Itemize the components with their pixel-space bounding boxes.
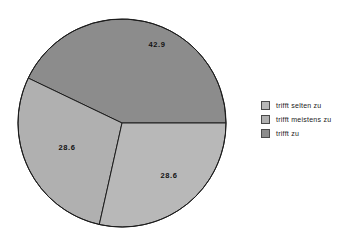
legend-item-trifft-selten-zu[interactable]: trifft selten zu: [261, 98, 357, 112]
pie-svg: 42.9 28.6 28.6: [17, 18, 227, 228]
legend-swatch-icon: [261, 115, 270, 124]
legend-item-label: trifft zu: [276, 129, 299, 138]
legend-item-label: trifft meistens zu: [276, 115, 331, 124]
pie-chart-figure: 42.9 28.6 28.6 trifft selten zu trifft m…: [0, 0, 362, 239]
legend-item-trifft-meistens-zu[interactable]: trifft meistens zu: [261, 112, 357, 126]
pie-label-trifft-meistens-zu: 28.6: [59, 143, 76, 152]
chart-legend: trifft selten zu trifft meistens zu trif…: [261, 98, 357, 140]
pie-slices: [18, 19, 226, 227]
legend-swatch-icon: [261, 101, 270, 110]
legend-item-trifft-zu[interactable]: trifft zu: [261, 126, 357, 140]
pie-label-trifft-zu: 42.9: [149, 40, 166, 49]
pie-label-trifft-selten-zu: 28.6: [161, 171, 178, 180]
legend-swatch-icon: [261, 129, 270, 138]
legend-item-label: trifft selten zu: [276, 101, 322, 110]
pie-plot-area: 42.9 28.6 28.6: [17, 18, 227, 228]
